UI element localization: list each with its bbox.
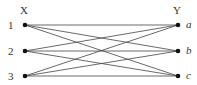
- node-b: [176, 49, 181, 54]
- left-group-title: X: [20, 4, 28, 16]
- node-2: [23, 49, 28, 54]
- node-label-c: c: [186, 69, 191, 81]
- right-group-title: Y: [173, 4, 181, 16]
- node-a: [176, 23, 181, 28]
- node-label-3: 3: [8, 70, 14, 82]
- edges: [25, 25, 178, 76]
- bipartite-graph: X Y 1 2 3 a b c: [0, 0, 197, 85]
- node-label-b: b: [186, 44, 192, 56]
- node-label-2: 2: [8, 45, 14, 57]
- node-3: [23, 74, 28, 79]
- node-label-a: a: [186, 18, 192, 30]
- node-1: [23, 23, 28, 28]
- node-c: [176, 74, 181, 79]
- node-label-1: 1: [8, 19, 14, 31]
